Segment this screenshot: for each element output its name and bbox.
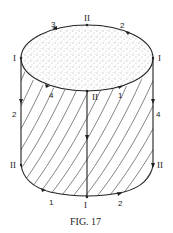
label-bottom-center: I [84,200,87,210]
label-right-lower: II [157,160,163,170]
label-front-center: II [92,92,98,102]
vertex-dot [86,196,88,198]
vertex-dot [152,164,154,166]
arrow-icon [118,86,123,89]
hatch-line [0,60,30,200]
vertex-dot [152,57,154,59]
label-top-right-arc: 2 [120,21,125,30]
label-right-rim: I [158,53,161,63]
hatch-line [130,60,173,200]
top-surface [21,25,153,91]
arrow-icon [151,99,155,104]
vertex-dot [86,24,88,26]
hatch-line [166,60,173,200]
hatch-line [0,60,18,200]
hatch-line [0,60,6,200]
label-top-left-arc: 3 [51,20,56,29]
arrow-icon [41,188,46,192]
vertex-dot [20,164,22,166]
cylinder-figure: II 3 2 I I 4 II 1 2 II 4 II 1 I 2 FIG. 1… [0,0,173,233]
label-right-upper: 4 [156,110,161,119]
label-left-upper: 2 [12,110,17,119]
hatch-line [154,60,173,200]
vertex-dot [86,90,88,92]
label-bottom-right-arc: 2 [118,199,123,208]
label-left-lower: II [10,160,16,170]
label-front-left-arc: 4 [49,91,54,100]
label-left-rim: I [13,53,16,63]
label-front-right-arc: 1 [118,91,123,100]
vertex-dot [20,57,22,59]
label-top-center: II [84,13,90,23]
label-bottom-left-arc: 1 [49,198,54,207]
figure-caption: FIG. 17 [70,216,101,227]
